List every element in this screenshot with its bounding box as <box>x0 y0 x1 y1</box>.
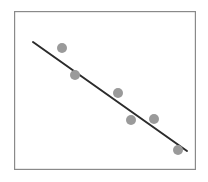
data-point <box>126 115 136 125</box>
data-point <box>57 43 67 53</box>
data-point <box>149 114 159 124</box>
scatter-plot-figure <box>0 0 208 182</box>
plot-frame-border <box>15 12 196 170</box>
data-point <box>70 70 80 80</box>
data-point <box>173 145 183 155</box>
plot-canvas <box>0 0 208 182</box>
data-point <box>113 88 123 98</box>
